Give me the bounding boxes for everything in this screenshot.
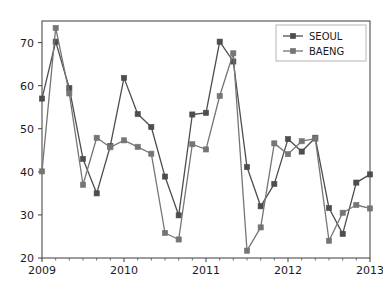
chart-legend[interactable]: SEOULBAENG xyxy=(276,25,366,61)
data-point-marker xyxy=(162,230,167,235)
data-point-marker xyxy=(94,135,99,140)
data-point-marker xyxy=(135,111,140,116)
y-tick-label: 70 xyxy=(20,37,34,50)
data-point-marker xyxy=(203,147,208,152)
data-point-marker xyxy=(354,202,359,207)
data-point-marker xyxy=(108,145,113,150)
data-point-marker xyxy=(258,204,263,209)
data-point-marker xyxy=(203,110,208,115)
y-tick-label: 30 xyxy=(20,209,34,222)
data-point-marker xyxy=(231,51,236,56)
data-point-marker xyxy=(176,213,181,218)
data-point-marker xyxy=(285,136,290,141)
y-tick-label: 60 xyxy=(20,80,34,93)
data-point-marker xyxy=(285,152,290,157)
x-tick-label: 2009 xyxy=(28,264,56,277)
data-point-marker xyxy=(299,149,304,154)
data-point-marker xyxy=(217,39,222,44)
legend-label-seoul: SEOUL xyxy=(309,31,343,42)
data-point-marker xyxy=(354,180,359,185)
data-point-marker xyxy=(190,112,195,117)
data-point-marker xyxy=(340,210,345,215)
data-point-marker xyxy=(326,205,331,210)
data-point-marker xyxy=(135,144,140,149)
data-point-marker xyxy=(299,139,304,144)
x-tick-label: 2013 xyxy=(356,264,383,277)
data-point-marker xyxy=(80,182,85,187)
data-point-marker xyxy=(340,231,345,236)
data-point-marker xyxy=(326,238,331,243)
data-point-marker xyxy=(190,142,195,147)
data-point-marker xyxy=(121,75,126,80)
legend-label-baeng: BAENG xyxy=(309,46,344,57)
data-point-marker xyxy=(217,93,222,98)
y-tick-label: 40 xyxy=(20,166,34,179)
data-point-marker xyxy=(162,174,167,179)
data-point-marker xyxy=(80,156,85,161)
data-point-marker xyxy=(244,248,249,253)
x-tick-label: 2012 xyxy=(274,264,302,277)
data-point-marker xyxy=(367,172,372,177)
data-point-marker xyxy=(39,96,44,101)
data-point-marker xyxy=(313,136,318,141)
data-point-marker xyxy=(149,124,154,129)
data-point-marker xyxy=(67,91,72,96)
data-point-marker xyxy=(176,237,181,242)
data-point-marker xyxy=(121,138,126,143)
legend-marker-baeng xyxy=(290,48,295,53)
x-tick-label: 2011 xyxy=(192,264,220,277)
data-point-marker xyxy=(258,225,263,230)
y-tick-label: 50 xyxy=(20,123,34,136)
data-point-marker xyxy=(94,191,99,196)
legend-marker-seoul xyxy=(290,33,295,38)
data-point-marker xyxy=(149,151,154,156)
data-point-marker xyxy=(272,141,277,146)
data-point-marker xyxy=(272,181,277,186)
line-chart: 203040506070 20092010201120122013 SEOULB… xyxy=(0,0,383,299)
x-tick-label: 2010 xyxy=(110,264,138,277)
data-point-marker xyxy=(39,169,44,174)
data-point-marker xyxy=(244,164,249,169)
chart-container: 203040506070 20092010201120122013 SEOULB… xyxy=(0,0,383,299)
data-point-marker xyxy=(53,25,58,30)
data-point-marker xyxy=(367,206,372,211)
